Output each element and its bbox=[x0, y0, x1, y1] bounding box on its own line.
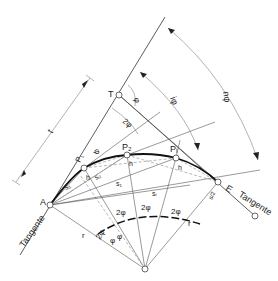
radius-p2 bbox=[127, 155, 145, 269]
point-p1 bbox=[81, 165, 87, 171]
label-2phi-t: 2φ bbox=[121, 117, 134, 130]
point-center bbox=[142, 266, 148, 272]
label-2phi-d: 2φ bbox=[171, 207, 181, 216]
point-e bbox=[215, 179, 221, 185]
label-h-pi: h bbox=[178, 164, 182, 171]
dimension-t-line bbox=[16, 78, 90, 182]
label-point-p1: P₁ bbox=[74, 152, 86, 163]
arrow-icon bbox=[82, 80, 88, 88]
point-p2 bbox=[124, 152, 130, 158]
bisector bbox=[80, 175, 145, 269]
radius-p1 bbox=[84, 168, 145, 269]
point-a bbox=[47, 202, 53, 208]
label-r-left: r bbox=[82, 231, 85, 240]
label-point-pi: Pᵢ bbox=[170, 144, 177, 154]
arc-n-phi bbox=[168, 28, 258, 160]
label-2phi-c: 2φ bbox=[141, 203, 151, 212]
label-n-phi: nφ bbox=[221, 91, 233, 104]
label-phi-a: φ bbox=[110, 236, 115, 245]
label-s-half: s/2 bbox=[207, 190, 216, 200]
label-i-phi: iφ bbox=[168, 95, 180, 106]
point-pi bbox=[173, 155, 179, 161]
curve-geometry-diagram: t nφ iφ φ 2φ φ 2φ 2φ 2φ 2φ φ φ r r bbox=[0, 0, 278, 281]
label-point-e: E bbox=[224, 183, 234, 195]
label-point-p2: P₂ bbox=[122, 142, 132, 152]
label-h-p2: h bbox=[129, 160, 133, 167]
label-s1-inner: s₁ bbox=[116, 180, 123, 187]
label-t: t bbox=[45, 127, 55, 135]
label-si: sᵢ bbox=[152, 190, 157, 197]
label-h-p1: h bbox=[86, 174, 90, 181]
point-tangent-end bbox=[252, 213, 258, 219]
label-phi-p1: φ bbox=[92, 148, 102, 156]
arc-i-phi bbox=[140, 72, 198, 150]
point-t bbox=[116, 92, 122, 98]
label-point-a: A bbox=[40, 197, 46, 207]
label-tangent-left: Tangente bbox=[17, 213, 46, 249]
label-2phi-b: 2φ bbox=[116, 208, 126, 217]
label-s2: s₂ bbox=[93, 172, 102, 181]
label-r-right: r bbox=[188, 219, 191, 228]
label-point-t: T bbox=[108, 89, 114, 99]
label-phi-t: φ bbox=[132, 97, 142, 104]
label-phi-b: φ bbox=[117, 232, 122, 241]
arc-center-angles bbox=[98, 216, 200, 234]
